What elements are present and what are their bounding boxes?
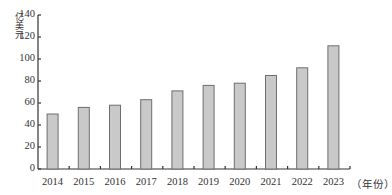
bar-2018 [172, 91, 183, 169]
bar-2015 [78, 107, 89, 169]
x-tick-label: 2014 [36, 176, 70, 187]
x-tick-label: 2017 [129, 176, 163, 187]
plot-area [0, 0, 392, 195]
bar-2016 [110, 105, 121, 169]
bar-2014 [47, 114, 58, 169]
x-tick-label: 2022 [285, 176, 319, 187]
x-tick-label: 2020 [223, 176, 257, 187]
bar-2021 [266, 76, 277, 170]
bar-2020 [234, 83, 245, 169]
y-tick-label: 20 [13, 140, 35, 151]
y-tick-label: 120 [13, 30, 35, 41]
x-tick-label: 2023 [316, 176, 350, 187]
y-tick-label: 80 [13, 74, 35, 85]
x-tick-label: 2019 [192, 176, 226, 187]
bar-2017 [141, 100, 152, 169]
x-tick-label: 2021 [254, 176, 288, 187]
y-tick-label: 60 [13, 96, 35, 107]
x-tick-label: 2015 [67, 176, 101, 187]
x-tick-label: 2018 [160, 176, 194, 187]
y-tick-label: 0 [13, 162, 35, 173]
bar-2022 [297, 68, 308, 169]
bar-2023 [328, 46, 339, 169]
bar-chart: 亿美元 020406080100120140 20142015201620172… [0, 0, 392, 195]
y-tick-label: 100 [13, 52, 35, 63]
x-tick-label: 2016 [98, 176, 132, 187]
y-tick-label: 40 [13, 118, 35, 129]
y-tick-label: 140 [13, 8, 35, 19]
bar-2019 [203, 85, 214, 169]
x-axis-unit-label: （年份） [351, 176, 392, 191]
